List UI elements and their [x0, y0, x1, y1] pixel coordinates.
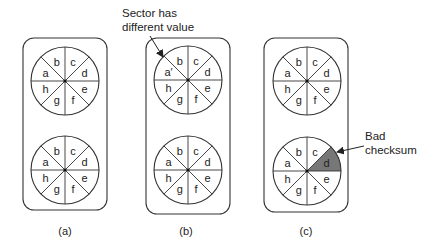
sector-label-g: g [296, 94, 302, 106]
sector-label-e: e [204, 82, 210, 94]
sector-label-h: h [42, 172, 48, 184]
disk-platter: abcdefgh [154, 136, 222, 204]
sector-label-d: d [323, 67, 329, 79]
sector-label-e: e [81, 83, 87, 95]
sector-label-f: f [195, 93, 199, 105]
sector-label-c: c [312, 146, 318, 158]
sector-label-a: a [42, 156, 49, 168]
sector-label-c: c [70, 145, 76, 157]
disk-platter: abcdefgh [31, 136, 99, 204]
annotation-text: different value [122, 21, 194, 33]
disk-platter: a′bcdefgh [154, 46, 222, 114]
sector-label-d: d [81, 156, 87, 168]
sector-label-f: f [72, 183, 76, 195]
sector-label-g: g [296, 184, 302, 196]
annotation-text: Sector has [122, 7, 177, 19]
annotation-text: Bad [365, 130, 385, 142]
sector-label-h: h [284, 173, 290, 185]
sector-label-g: g [177, 93, 183, 105]
sector-label-e: e [204, 172, 210, 184]
sector-label-e: e [323, 173, 329, 185]
sector-label-a: a [42, 67, 49, 79]
sector-label-c: c [312, 56, 318, 68]
sector-label-a: a [284, 157, 291, 169]
spindle-dot [186, 78, 189, 81]
sector-label-d: d [204, 156, 210, 168]
spindle-dot [186, 168, 189, 171]
panel-caption-b: (b) [179, 225, 192, 237]
sector-label-b: b [54, 145, 60, 157]
sector-label-d: d [323, 157, 329, 169]
sector-label-f: f [72, 94, 76, 106]
panel-a: abcdefghabcdefgh(a) [23, 38, 107, 237]
arrow-icon [150, 36, 163, 57]
disk-platter: abcdefgh [31, 47, 99, 115]
arrow-icon [337, 146, 364, 152]
sector-label-d: d [81, 67, 87, 79]
spindle-dot [305, 79, 308, 82]
sector-label-b: b [296, 146, 302, 158]
sector-label-b: b [177, 55, 183, 67]
sector-label-h: h [165, 172, 171, 184]
sector-label-c: c [193, 55, 199, 67]
spindle-dot [63, 168, 66, 171]
sector-label-g: g [54, 94, 60, 106]
sector-label-f: f [195, 183, 199, 195]
sector-label-a: a [284, 67, 291, 79]
sector-label-b: b [177, 145, 183, 157]
annotation-text: checksum [365, 144, 417, 156]
spindle-dot [305, 169, 308, 172]
sector-label-c: c [193, 145, 199, 157]
panel-caption-c: (c) [300, 225, 313, 237]
sector-label-h: h [42, 83, 48, 95]
panel-c: abcdefghabcdefgh(c) [264, 38, 348, 237]
sector-label-a: a [165, 156, 172, 168]
disk-platter: abcdefgh [273, 47, 341, 115]
panel-b: a′bcdefghabcdefgh(b) [146, 38, 230, 237]
sector-label-g: g [54, 183, 60, 195]
sector-label-a: a′ [164, 66, 172, 78]
panel-caption-a: (a) [58, 225, 71, 237]
sector-label-e: e [81, 172, 87, 184]
raid-sector-diagram: abcdefghabcdefgh(a)a′bcdefghabcdefgh(b)a… [0, 0, 431, 250]
disk-platter: abcdefgh [273, 137, 341, 205]
sector-label-h: h [284, 83, 290, 95]
sector-label-b: b [296, 56, 302, 68]
sector-label-f: f [314, 184, 318, 196]
sector-label-e: e [323, 83, 329, 95]
sector-label-d: d [204, 66, 210, 78]
annotation-bad-checksum: Badchecksum [337, 130, 417, 156]
sector-label-b: b [54, 56, 60, 68]
annotation-sector-different: Sector hasdifferent value [122, 7, 194, 57]
sector-label-g: g [177, 183, 183, 195]
sector-label-h: h [165, 82, 171, 94]
sector-label-f: f [314, 94, 318, 106]
spindle-dot [63, 79, 66, 82]
sector-label-c: c [70, 56, 76, 68]
